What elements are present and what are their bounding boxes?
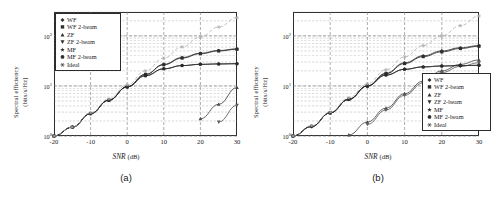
legend-a: WFWF 2-beamZFZF 2-beamMFMF 2-beamIdeal — [55, 13, 121, 71]
x-tick-label: 20 — [197, 138, 204, 145]
legend-label: WF 2-beam — [434, 83, 464, 91]
panel-b: Spectral efficiency (bits/s/Hz) SNR (dB)… — [252, 0, 504, 198]
circle-marker-icon — [58, 53, 67, 61]
star-marker-icon — [58, 46, 67, 54]
panel-caption-b: (b) — [252, 172, 504, 183]
legend-label: MF 2-beam — [434, 113, 464, 121]
legend-label: MF — [434, 106, 443, 114]
legend-entry-wf: WF — [425, 76, 487, 84]
legend-label: WF — [434, 76, 443, 84]
y-tick-label: 100 — [37, 132, 52, 140]
y-tick-label: 101 — [37, 82, 52, 90]
x-axis-label-b: SNR (dB) — [252, 152, 504, 161]
x-tick-label: 20 — [439, 138, 446, 145]
square-marker-icon — [425, 83, 434, 91]
legend-entry-wf: WF — [58, 16, 117, 24]
triangle-down-marker-icon — [425, 98, 434, 106]
legend-label: ZF 2-beam — [434, 98, 462, 106]
legend-label: MF 2-beam — [67, 53, 97, 61]
diamond-marker-icon — [425, 76, 434, 84]
y-tick-label: 100 — [276, 132, 291, 140]
y-tick-label: 102 — [276, 32, 291, 40]
legend-label: Ideal — [67, 61, 80, 69]
legend-entry-zf-2-beam: ZF 2-beam — [58, 38, 117, 46]
star-marker-icon — [425, 106, 434, 114]
legend-entry-mf-2-beam: MF 2-beam — [425, 113, 487, 121]
legend-entry-mf-2-beam: MF 2-beam — [58, 53, 117, 61]
x-tick-label: 10 — [401, 138, 408, 145]
legend-b: WFWF 2-beamZFZF 2-beamMFMF 2-beamIdeal — [422, 73, 491, 131]
figure-two-panel-chart: Spectral efficiency (bits/s/Hz) SNR (dB)… — [0, 0, 504, 198]
legend-entry-zf: ZF — [58, 31, 117, 39]
legend-entry-zf: ZF — [425, 91, 487, 99]
legend-entry-ideal: Ideal — [58, 61, 117, 69]
x-tick-label: 0 — [366, 138, 369, 145]
legend-label: ZF — [67, 31, 74, 39]
legend-entry-mf: MF — [58, 46, 117, 54]
legend-label: WF — [67, 16, 76, 24]
x-tick-label: 0 — [126, 138, 129, 145]
legend-entry-wf-2-beam: WF 2-beam — [425, 83, 487, 91]
x-tick-label: -10 — [326, 138, 335, 145]
x-axis-label-a: SNR (dB) — [0, 152, 252, 161]
legend-label: MF — [67, 46, 76, 54]
y-tick-label: 102 — [37, 32, 52, 40]
legend-entry-wf-2-beam: WF 2-beam — [58, 23, 117, 31]
x-tick-label: 30 — [476, 138, 483, 145]
legend-label: ZF 2-beam — [67, 38, 95, 46]
triangle-down-marker-icon — [58, 38, 67, 46]
circle-marker-icon — [425, 113, 434, 121]
y-tick-label: 101 — [276, 82, 291, 90]
x-tick-label: -10 — [86, 138, 95, 145]
x-tick-label: 30 — [234, 138, 241, 145]
asterisk-marker-icon — [58, 61, 67, 69]
panel-caption-a: (a) — [0, 172, 252, 183]
legend-entry-mf: MF — [425, 106, 487, 114]
x-tick-label: 10 — [161, 138, 168, 145]
y-axis-label-a: Spectral efficiency (bits/s/Hz) — [12, 66, 29, 118]
y-axis-label-b: Spectral efficiency (bits/s/Hz) — [252, 66, 269, 118]
legend-entry-zf-2-beam: ZF 2-beam — [425, 98, 487, 106]
panel-a: Spectral efficiency (bits/s/Hz) SNR (dB)… — [0, 0, 252, 198]
triangle-up-marker-icon — [58, 31, 67, 39]
legend-label: WF 2-beam — [67, 23, 97, 31]
legend-entry-ideal: Ideal — [425, 121, 487, 129]
square-marker-icon — [58, 23, 67, 31]
asterisk-marker-icon — [425, 121, 434, 129]
legend-label: ZF — [434, 91, 441, 99]
triangle-up-marker-icon — [425, 91, 434, 99]
legend-label: Ideal — [434, 121, 447, 129]
diamond-marker-icon — [58, 16, 67, 24]
